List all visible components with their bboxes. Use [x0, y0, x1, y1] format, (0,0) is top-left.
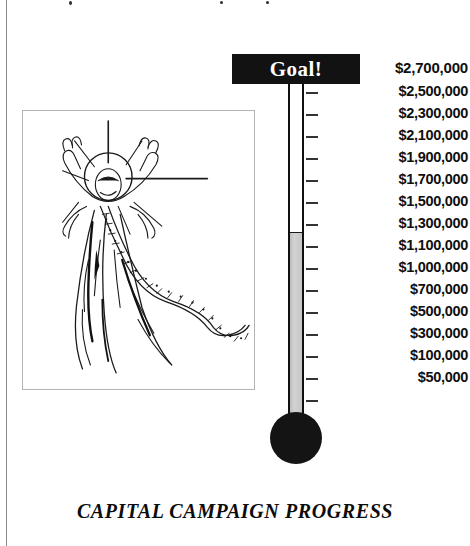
scale-tick-label: $1,100,000: [320, 237, 468, 253]
scale-tick: [306, 224, 318, 226]
scale-tick: [306, 180, 318, 182]
scale-tick-label: $1,500,000: [320, 193, 468, 209]
scale-tick-label: $2,100,000: [320, 127, 468, 143]
scale-tick-label: $1,700,000: [320, 171, 468, 187]
goal-banner-label: Goal!: [270, 57, 323, 82]
scale-tick: [306, 268, 318, 270]
scale-tick-label: $300,000: [320, 325, 468, 341]
scale-tick-label: $2,300,000: [320, 105, 468, 121]
scale-tick-label: $1,300,000: [320, 215, 468, 231]
scale-tick: [306, 136, 318, 138]
scale-tick-label: $700,000: [320, 281, 468, 297]
scale-tick: [306, 290, 318, 292]
page-edge-line: [6, 0, 7, 546]
scale-tick: [306, 114, 318, 116]
scale-tick-label: $1,900,000: [320, 149, 468, 165]
illustration-frame: [22, 110, 255, 390]
thermometer-tube: [288, 84, 304, 420]
scale-tick-label: $2,500,000: [320, 83, 468, 99]
scale-tick: [306, 92, 318, 94]
scale-tick-label: $1,000,000: [320, 259, 468, 275]
scale-tick-label: $500,000: [320, 303, 468, 319]
thermometer-mercury-fill: [290, 232, 302, 420]
campaign-progress-poster: Goal! $2,700,000 $2,500,000$2,300,000$2,…: [0, 0, 470, 546]
risen-figure-line-art: [23, 111, 254, 389]
scale-tick: [306, 158, 318, 160]
scale-tick: [306, 378, 318, 380]
scale-tick: [306, 312, 318, 314]
goal-amount-label: $2,700,000: [360, 59, 468, 76]
scale-tick-label: $50,000: [320, 369, 468, 385]
scale-tick: [306, 202, 318, 204]
goal-banner: Goal!: [232, 54, 360, 84]
scale-tick: [306, 356, 318, 358]
thermometer-bulb: [270, 412, 322, 464]
poster-caption: CAPITAL CAMPAIGN PROGRESS: [0, 500, 470, 523]
scale-tick: [306, 400, 318, 402]
scale-tick: [306, 334, 318, 336]
scale-tick-label: $100,000: [320, 347, 468, 363]
scan-speck: [220, 1, 223, 4]
scale-tick: [306, 246, 318, 248]
scan-speck: [266, 1, 269, 4]
scan-speck: [69, 1, 72, 5]
